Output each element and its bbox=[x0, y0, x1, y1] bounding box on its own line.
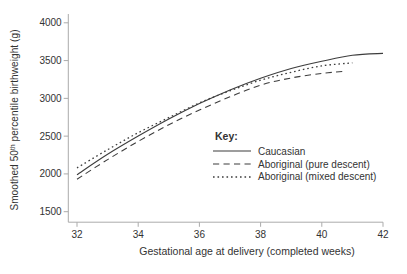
y-axis-title-superscript: th bbox=[8, 144, 15, 150]
y-tick-label: 3500 bbox=[39, 55, 62, 66]
legend-line-sample-solid bbox=[213, 149, 251, 153]
y-tick-label: 4000 bbox=[39, 17, 62, 28]
figure: 150020002500300035004000323436384042 Smo… bbox=[0, 0, 407, 274]
legend-line-sample-dotted bbox=[213, 175, 251, 179]
y-axis-title: Smoothed 50th percentile birthweight (g) bbox=[9, 29, 20, 210]
y-tick-label: 2500 bbox=[39, 131, 62, 142]
y-tick-label: 2000 bbox=[39, 168, 62, 179]
x-tick-label: 32 bbox=[71, 229, 83, 240]
legend-item: Aboriginal (pure descent) bbox=[213, 158, 376, 171]
legend-item: Caucasian bbox=[213, 145, 376, 158]
x-tick-label: 34 bbox=[133, 229, 145, 240]
x-tick-label: 42 bbox=[377, 229, 389, 240]
legend-item-label: Caucasian bbox=[258, 146, 305, 157]
x-tick-label: 38 bbox=[255, 229, 267, 240]
x-axis-title: Gestational age at delivery (completed w… bbox=[96, 245, 398, 257]
y-axis-title-text: percentile birthweight (g) bbox=[9, 29, 20, 144]
y-tick-label: 3000 bbox=[39, 93, 62, 104]
legend-item: Aboriginal (mixed descent) bbox=[213, 171, 376, 184]
legend-item-label: Aboriginal (pure descent) bbox=[258, 159, 370, 170]
legend: Key: Caucasian Aboriginal (pure descent)… bbox=[213, 130, 376, 183]
y-axis-title-text: Smoothed 50 bbox=[9, 150, 20, 211]
x-tick-label: 40 bbox=[316, 229, 328, 240]
legend-title: Key: bbox=[213, 130, 376, 142]
y-tick-label: 1500 bbox=[39, 206, 62, 217]
legend-item-label: Aboriginal (mixed descent) bbox=[258, 171, 376, 182]
x-tick-label: 36 bbox=[194, 229, 206, 240]
legend-line-sample-dashed bbox=[213, 162, 251, 166]
